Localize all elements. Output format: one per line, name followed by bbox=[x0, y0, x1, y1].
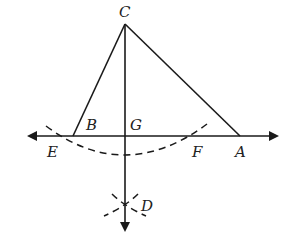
label-f: F bbox=[191, 143, 203, 161]
arc-d-right bbox=[104, 194, 138, 216]
label-d: D bbox=[140, 197, 153, 215]
label-b: B bbox=[85, 116, 97, 134]
arc-ef bbox=[46, 124, 207, 155]
label-e: E bbox=[46, 143, 58, 161]
segment-cb bbox=[73, 24, 125, 136]
label-a: A bbox=[233, 143, 246, 161]
geometry-diagram: C B G E F A D bbox=[0, 0, 292, 244]
label-g: G bbox=[130, 116, 142, 134]
segment-ca bbox=[125, 24, 240, 136]
label-c: C bbox=[119, 3, 131, 21]
